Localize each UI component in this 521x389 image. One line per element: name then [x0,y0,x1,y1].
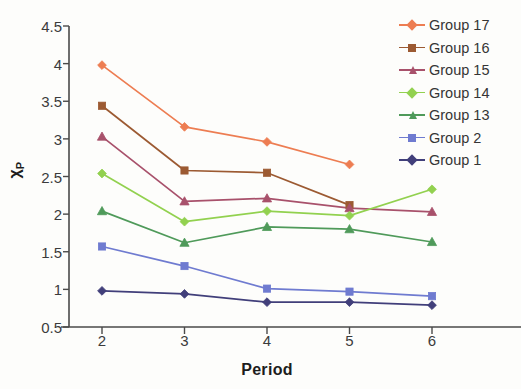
data-point-marker [263,285,270,292]
y-axis-tick-label: 1 [22,282,62,297]
legend-item-group-1[interactable]: Group 1 [399,149,517,172]
data-point-marker [263,137,272,146]
legend-marker-square-icon [408,44,416,52]
y-axis-tick-label: 3 [22,131,62,146]
data-point-marker [263,207,272,216]
x-axis-title: Period [69,361,465,379]
legend-label: Group 17 [429,18,489,33]
data-point-marker [428,185,437,194]
legend-marker-triangle-icon [409,111,417,119]
y-axis-tick-label: 0.5 [22,320,62,335]
legend-swatch-icon [399,87,425,99]
legend-marker-square-icon [408,134,416,142]
y-axis-tick-label: 4 [22,56,62,71]
legend-label: Group 16 [429,41,489,56]
y-axis-title-subscript: P [14,162,26,169]
series-line [102,106,350,205]
legend-swatch-icon [399,64,425,76]
series-line [102,65,350,164]
legend-swatch-icon [399,42,425,54]
legend-item-group-15[interactable]: Group 15 [399,59,517,82]
y-axis-tick-label: 4.5 [22,19,62,34]
legend-item-group-2[interactable]: Group 2 [399,127,517,150]
data-point-marker [98,102,105,109]
data-point-marker [263,169,270,176]
x-axis-tick-label: 2 [82,333,122,348]
data-point-marker [345,211,354,220]
data-point-marker [428,301,437,310]
legend-label: Group 2 [429,131,481,146]
legend-marker-diamond-icon [406,155,417,166]
legend-item-group-14[interactable]: Group 14 [399,82,517,105]
x-axis-tick-label: 5 [330,333,370,348]
y-axis-title: χP [6,140,26,200]
x-axis-tick-labels: 23456 [69,333,465,355]
series-markers [97,61,436,310]
data-point-marker [98,169,107,178]
data-point-marker [263,298,272,307]
data-point-marker [180,217,189,226]
data-point-marker [98,286,107,295]
legend-marker-diamond-icon [406,20,417,31]
legend-marker-triangle-icon [409,66,417,74]
data-point-marker [181,262,188,269]
y-axis-tick-label: 3.5 [22,94,62,109]
x-axis-tick-label: 4 [247,333,287,348]
data-point-marker [345,298,354,307]
data-point-marker [180,289,189,298]
legend-swatch-icon [399,19,425,31]
series-lines [102,65,432,305]
legend-item-group-16[interactable]: Group 16 [399,37,517,60]
y-axis-tick-label: 1.5 [22,244,62,259]
data-point-marker [428,293,435,300]
data-point-marker [98,243,105,250]
legend-swatch-icon [399,132,425,144]
x-axis-tick-label: 6 [412,333,452,348]
data-point-marker [346,288,353,295]
legend-item-group-17[interactable]: Group 17 [399,14,517,37]
y-axis-tick-label: 2 [22,207,62,222]
legend-label: Group 13 [429,108,489,123]
legend-label: Group 1 [429,153,481,168]
y-axis-tick-label: 2.5 [22,169,62,184]
data-point-marker [97,132,106,140]
data-point-marker [181,167,188,174]
legend-swatch-icon [399,109,425,121]
x-axis-tick-label: 3 [165,333,205,348]
data-point-marker [345,160,354,169]
legend-item-group-13[interactable]: Group 13 [399,104,517,127]
line-chart: 0.511.522.533.544.5 23456 χP Period Grou… [0,0,521,389]
legend-swatch-icon [399,154,425,166]
chart-legend: Group 17Group 16Group 15Group 14Group 13… [399,14,517,172]
y-axis-title-symbol: χ [6,169,23,178]
legend-label: Group 14 [429,86,489,101]
legend-marker-diamond-icon [406,87,417,98]
data-point-marker [97,207,106,215]
legend-label: Group 15 [429,63,489,78]
